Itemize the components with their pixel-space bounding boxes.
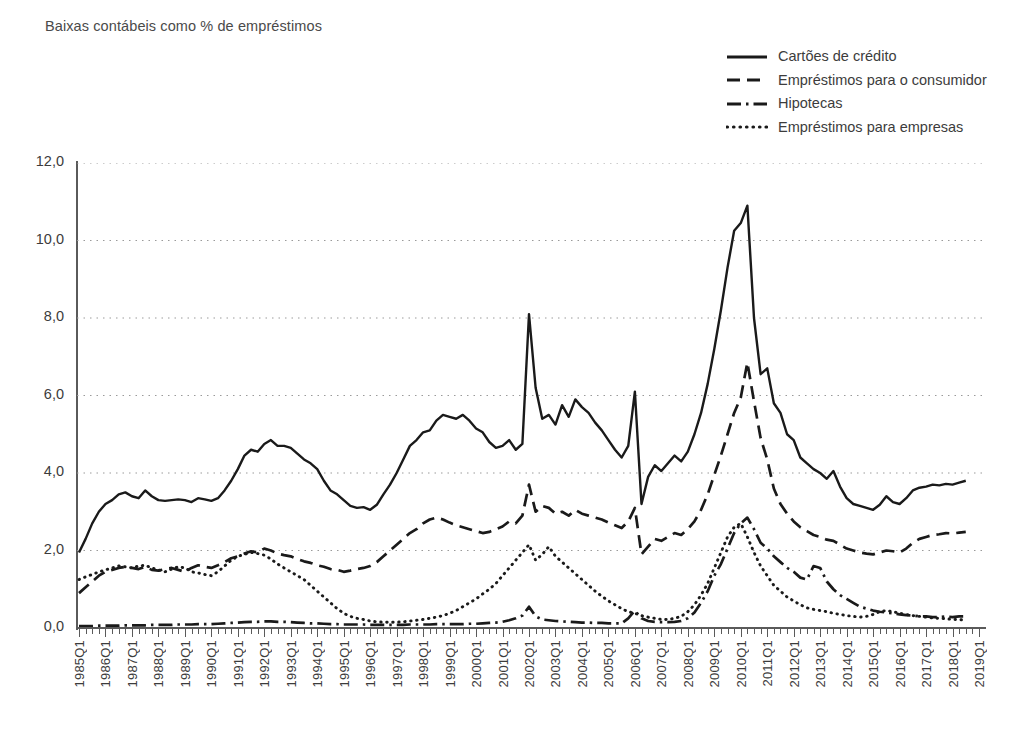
legend-label: Empréstimos para empresas bbox=[778, 119, 963, 136]
legend-label: Cartões de crédito bbox=[778, 48, 896, 65]
x-tick bbox=[661, 628, 662, 637]
x-tick bbox=[827, 628, 828, 634]
x-tick bbox=[330, 628, 331, 634]
x-tick bbox=[867, 628, 868, 634]
x-tick-label: 1997Q1 bbox=[390, 640, 405, 687]
x-tick-label: 2006Q1 bbox=[628, 640, 643, 687]
x-tick bbox=[185, 628, 186, 637]
dash-dot-line-icon bbox=[726, 98, 768, 110]
x-axis-labels: 1985Q11986Q11987Q11988Q11989Q11990Q11991… bbox=[77, 640, 985, 710]
x-tick bbox=[357, 628, 358, 634]
x-tick bbox=[231, 628, 232, 634]
y-tick-label: 2,0 bbox=[18, 541, 64, 557]
x-tick bbox=[728, 628, 729, 634]
x-tick-label: 1999Q1 bbox=[443, 640, 458, 687]
x-tick bbox=[608, 628, 609, 637]
x-tick bbox=[205, 628, 206, 634]
x-tick bbox=[489, 628, 490, 634]
x-tick bbox=[251, 628, 252, 634]
x-tick-label: 2002Q1 bbox=[522, 640, 537, 687]
y-tick-label: 10,0 bbox=[18, 231, 64, 247]
x-tick bbox=[105, 628, 106, 637]
x-tick bbox=[880, 628, 881, 634]
series-line-1 bbox=[79, 206, 966, 553]
x-tick bbox=[701, 628, 702, 634]
x-tick-label: 1990Q1 bbox=[204, 640, 219, 687]
x-tick bbox=[417, 628, 418, 634]
x-tick bbox=[99, 628, 100, 634]
x-tick-label: 1987Q1 bbox=[125, 640, 140, 687]
y-tick-label: 12,0 bbox=[18, 153, 64, 169]
x-tick bbox=[192, 628, 193, 634]
x-tick bbox=[979, 628, 980, 637]
x-tick bbox=[132, 628, 133, 637]
legend-item-3[interactable]: Hipotecas bbox=[726, 95, 987, 112]
chart-figure: Baixas contábeis como % de empréstimos C… bbox=[0, 0, 1012, 732]
solid-line-icon bbox=[726, 51, 768, 63]
x-tick bbox=[291, 628, 292, 637]
x-tick bbox=[873, 628, 874, 637]
legend-item-4[interactable]: Empréstimos para empresas bbox=[726, 119, 987, 136]
x-tick bbox=[125, 628, 126, 634]
legend-item-2[interactable]: Empréstimos para o consumidor bbox=[726, 72, 987, 89]
legend-item-1[interactable]: Cartões de crédito bbox=[726, 48, 987, 65]
series-line-3 bbox=[79, 518, 966, 627]
x-tick bbox=[456, 628, 457, 634]
x-tick bbox=[913, 628, 914, 634]
x-tick bbox=[807, 628, 808, 634]
series-line-2 bbox=[79, 363, 966, 594]
y-tick-label: 6,0 bbox=[18, 386, 64, 402]
x-tick bbox=[939, 628, 940, 634]
x-tick-label: 2009Q1 bbox=[707, 640, 722, 687]
x-tick bbox=[847, 628, 848, 637]
x-tick bbox=[933, 628, 934, 634]
x-tick bbox=[714, 628, 715, 637]
x-tick-label: 2019Q1 bbox=[972, 640, 987, 687]
x-tick bbox=[370, 628, 371, 637]
x-tick bbox=[959, 628, 960, 634]
x-tick bbox=[436, 628, 437, 634]
x-tick bbox=[390, 628, 391, 634]
x-tick bbox=[549, 628, 550, 634]
x-tick bbox=[820, 628, 821, 637]
x-tick-label: 1992Q1 bbox=[257, 640, 272, 687]
x-tick bbox=[423, 628, 424, 637]
x-tick bbox=[774, 628, 775, 634]
x-tick bbox=[787, 628, 788, 634]
x-tick-label: 2013Q1 bbox=[813, 640, 828, 687]
chart-title: Baixas contábeis como % de empréstimos bbox=[45, 18, 322, 34]
x-tick-label: 2004Q1 bbox=[575, 640, 590, 687]
x-tick bbox=[972, 628, 973, 634]
x-tick bbox=[628, 628, 629, 634]
plot-area bbox=[77, 163, 985, 628]
x-tick-label: 1989Q1 bbox=[178, 640, 193, 687]
x-tick-label: 1988Q1 bbox=[151, 640, 166, 687]
x-tick bbox=[860, 628, 861, 634]
x-tick bbox=[430, 628, 431, 634]
x-tick bbox=[225, 628, 226, 634]
x-tick bbox=[238, 628, 239, 637]
x-tick bbox=[622, 628, 623, 634]
x-tick bbox=[615, 628, 616, 634]
x-tick bbox=[278, 628, 279, 634]
x-tick bbox=[244, 628, 245, 634]
x-tick bbox=[734, 628, 735, 634]
x-tick bbox=[198, 628, 199, 634]
x-tick bbox=[139, 628, 140, 634]
x-tick bbox=[569, 628, 570, 634]
x-tick bbox=[344, 628, 345, 637]
x-tick bbox=[575, 628, 576, 634]
x-tick-label: 1986Q1 bbox=[98, 640, 113, 687]
x-tick bbox=[906, 628, 907, 634]
x-tick bbox=[119, 628, 120, 634]
x-tick-label: 2007Q1 bbox=[654, 640, 669, 687]
x-tick-label: 1993Q1 bbox=[284, 640, 299, 687]
x-tick bbox=[476, 628, 477, 637]
x-tick bbox=[324, 628, 325, 634]
x-tick bbox=[92, 628, 93, 634]
x-tick-label: 1994Q1 bbox=[310, 640, 325, 687]
x-tick bbox=[403, 628, 404, 634]
y-axis-labels: 12,010,08,06,04,02,00,0 bbox=[14, 0, 64, 732]
x-tick bbox=[648, 628, 649, 634]
series-line-4 bbox=[79, 523, 966, 622]
